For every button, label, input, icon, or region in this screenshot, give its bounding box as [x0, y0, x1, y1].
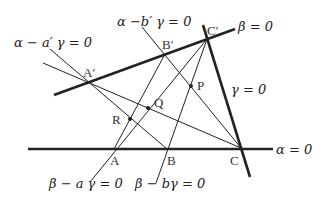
point-r	[128, 117, 132, 121]
label-c-prime: C′	[207, 23, 219, 38]
label-p: P	[197, 78, 204, 93]
label-beta-minus-a-gamma: β − a γ = 0	[48, 176, 123, 191]
label-r: R	[112, 112, 121, 127]
point-p	[189, 84, 193, 88]
line-alpha-minus-a-prime-gamma	[50, 49, 167, 149]
label-alpha-minus-a-prime-gamma: α − a′ γ = 0	[14, 35, 92, 50]
label-b: B	[167, 153, 176, 168]
line-a-prime-c	[43, 63, 241, 148]
label-b-prime: B′	[162, 37, 174, 52]
label-a: A	[110, 153, 120, 168]
projective-geometry-diagram: A′ B′ C′ P Q R A B C α − a′ γ = 0 α −b′ …	[0, 0, 326, 201]
label-a-prime: A′	[83, 65, 95, 80]
point-q	[146, 106, 150, 110]
label-q: Q	[154, 95, 164, 110]
label-alpha-zero: α = 0	[276, 142, 312, 157]
label-gamma-zero: γ = 0	[231, 82, 266, 97]
label-alpha-minus-b-prime-gamma: α −b′ γ = 0	[117, 14, 191, 29]
line-beta-minus-b-gamma	[156, 39, 207, 183]
label-beta-zero: β = 0	[237, 19, 273, 34]
label-c: C	[230, 153, 239, 168]
label-beta-minus-b-gamma: β − bγ = 0	[134, 176, 205, 191]
line-gamma-zero	[203, 25, 250, 177]
